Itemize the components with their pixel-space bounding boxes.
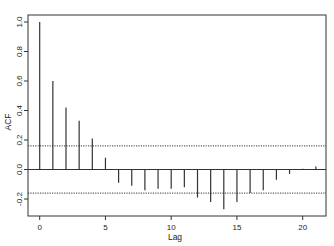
- y-tick-label: 0.8: [15, 45, 24, 57]
- y-tick-label: 1.0: [15, 16, 24, 28]
- y-axis-label: ACF: [3, 114, 13, 131]
- acf-chart: 05101520 -0.20.00.20.40.60.81.0 Lag ACF: [0, 0, 334, 246]
- y-tick-label: 0.2: [15, 134, 24, 146]
- x-axis-label: Lag: [168, 232, 182, 242]
- x-tick-label: 5: [103, 223, 108, 232]
- x-tick-label: 0: [37, 223, 42, 232]
- x-tick-label: 10: [167, 223, 176, 232]
- x-tick-label: 15: [232, 223, 241, 232]
- y-tick-label: -0.2: [15, 192, 24, 206]
- y-tick-label: 0.0: [15, 163, 24, 175]
- x-tick-label: 20: [298, 223, 307, 232]
- y-tick-label: 0.4: [15, 104, 24, 116]
- chart-background: [0, 0, 334, 246]
- y-tick-label: 0.6: [15, 75, 24, 87]
